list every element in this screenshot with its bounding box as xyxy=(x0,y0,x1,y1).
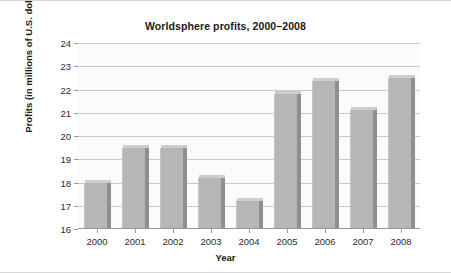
x-tick-label: 2007 xyxy=(352,236,373,247)
x-tick-slot: 2008 xyxy=(382,43,420,229)
x-tick-slot: 2007 xyxy=(344,43,382,229)
y-axis-label: Profits (in millions of U.S. dollars) xyxy=(23,0,34,147)
x-tick-mark xyxy=(135,229,136,233)
x-tick-mark xyxy=(173,229,174,233)
y-tick-label: 19 xyxy=(60,154,71,165)
x-tick-label: 2004 xyxy=(238,236,259,247)
x-tick-mark xyxy=(325,229,326,233)
x-tick-mark xyxy=(363,229,364,233)
x-tick-mark xyxy=(401,229,402,233)
chart-figure: Worldsphere profits, 2000–2008 Profits (… xyxy=(0,0,451,273)
x-tick-label: 2002 xyxy=(162,236,183,247)
y-tick-label: 16 xyxy=(60,224,71,235)
y-tick-label: 22 xyxy=(60,84,71,95)
chart-title: Worldsphere profits, 2000–2008 xyxy=(0,20,451,32)
x-tick-slot: 2001 xyxy=(116,43,154,229)
x-tick-mark xyxy=(287,229,288,233)
x-tick-label: 2000 xyxy=(86,236,107,247)
x-tick-slot: 2003 xyxy=(192,43,230,229)
x-tick-label: 2001 xyxy=(124,236,145,247)
x-tick-label: 2006 xyxy=(314,236,335,247)
y-tick-label: 20 xyxy=(60,131,71,142)
plot-area: 242322212019181716 200020012002200320042… xyxy=(78,43,420,229)
x-tick-mark xyxy=(249,229,250,233)
x-tick-label: 2005 xyxy=(276,236,297,247)
x-tick-mark xyxy=(97,229,98,233)
x-tick-slot: 2002 xyxy=(154,43,192,229)
x-tick-slot: 2000 xyxy=(78,43,116,229)
y-tick-label: 17 xyxy=(60,200,71,211)
x-tick-slot: 2004 xyxy=(230,43,268,229)
x-tick-slot: 2005 xyxy=(268,43,306,229)
x-tick-slot: 2006 xyxy=(306,43,344,229)
x-tick-label: 2003 xyxy=(200,236,221,247)
y-tick-label: 24 xyxy=(60,38,71,49)
y-tick-mark xyxy=(74,229,78,230)
y-tick-label: 18 xyxy=(60,177,71,188)
y-tick-label: 23 xyxy=(60,61,71,72)
y-tick-label: 21 xyxy=(60,107,71,118)
x-tick-mark xyxy=(211,229,212,233)
x-tick-label: 2008 xyxy=(390,236,411,247)
x-axis-label: Year xyxy=(0,252,451,263)
